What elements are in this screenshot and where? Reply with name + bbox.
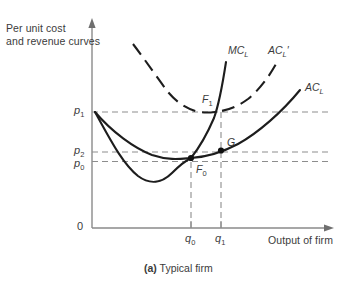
origin-label: 0 [77, 220, 83, 233]
curve-label-ac-l-prime: ACL′ [268, 44, 289, 59]
y-axis-title-line1: Per unit cost [6, 22, 100, 35]
curve-label-ac-l-base: AC [305, 81, 320, 93]
point-label-f0-sub: 0 [202, 169, 206, 178]
x-tick-marks [191, 221, 221, 228]
curve-label-ac-l: ACL [305, 81, 324, 96]
y-tick-label-p0: p0 [74, 157, 84, 172]
figure-caption-text: Typical firm [160, 262, 213, 274]
point-marker-g [218, 147, 224, 153]
y-axis-title: Per unit cost and revenue curves [6, 22, 100, 48]
point-label-g: G [227, 136, 235, 151]
curve-label-ac-l-prime-base: AC [268, 44, 283, 56]
curve-label-ac-l-prime-mark: ′ [287, 44, 289, 56]
figure-container: Per unit cost and revenue curves p1 p2 p… [0, 0, 354, 285]
x-axis-title: Output of firm [268, 234, 333, 247]
x-tick-label-q1: q1 [215, 232, 225, 247]
curve-label-mc-l-base: MC [228, 44, 244, 56]
y-axis-title-line2: and revenue curves [6, 35, 100, 48]
y-tick-label-p1-sub: 1 [80, 110, 84, 119]
reference-line-group [92, 112, 330, 228]
point-marker-f0 [188, 155, 194, 161]
point-label-g-base: G [227, 136, 235, 148]
point-label-f1-sub: 1 [208, 99, 212, 108]
x-tick-label-q1-sub: 1 [221, 238, 225, 247]
x-tick-label-q0: q0 [185, 232, 195, 247]
point-label-f0: F0 [196, 163, 207, 178]
y-tick-label-p1: p1 [74, 104, 84, 119]
curve-label-mc-l-sub: L [244, 50, 248, 59]
x-axis-arrowhead [324, 224, 334, 231]
figure-caption: (a) Typical firm [144, 262, 213, 274]
curve-label-ac-l-sub: L [320, 87, 324, 96]
figure-caption-tag: (a) [144, 262, 157, 274]
curve-label-mc-l: MCL [228, 44, 249, 59]
point-label-f1: F1 [202, 93, 213, 108]
y-tick-label-p0-sub: 0 [80, 163, 84, 172]
x-tick-label-q0-sub: 0 [191, 238, 195, 247]
